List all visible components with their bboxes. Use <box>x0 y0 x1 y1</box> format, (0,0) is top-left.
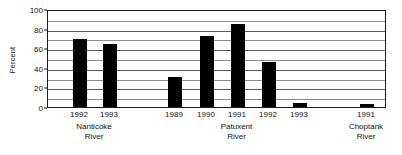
x-axis-labels: 19921993NanticokeRiver198919901991199219… <box>0 108 402 155</box>
group-label: NanticokeRiver <box>76 122 112 142</box>
x-axis-tick-label: 1990 <box>197 110 215 119</box>
bar-chart: Percent 020406080100 19921993NanticokeRi… <box>0 0 402 155</box>
bar <box>231 24 245 107</box>
x-axis-tick-label: 1991 <box>228 110 246 119</box>
bar <box>293 103 307 107</box>
bar-series <box>48 11 385 107</box>
y-axis-tick-label: 100 <box>3 6 43 15</box>
y-axis-tick-label: 40 <box>3 64 43 73</box>
x-axis-tick-label: 1991 <box>357 110 375 119</box>
x-axis-tick-label: 1993 <box>290 110 308 119</box>
x-axis-tick-label: 1992 <box>259 110 277 119</box>
bar <box>262 62 276 107</box>
plot-area <box>47 10 386 108</box>
bar <box>360 104 374 107</box>
group-label-line: Choptank <box>349 122 383 132</box>
bar <box>168 77 182 107</box>
group-label: ChoptankRiver <box>349 122 383 142</box>
group-label-line: River <box>349 132 383 142</box>
x-axis-tick-label: 1992 <box>70 110 88 119</box>
y-axis-tick-label: 80 <box>3 25 43 34</box>
bar <box>73 39 87 107</box>
x-axis-tick-label: 1993 <box>100 110 118 119</box>
bar <box>103 44 117 107</box>
group-label: PatuxentRiver <box>221 122 253 142</box>
x-axis-tick-label: 1989 <box>165 110 183 119</box>
group-label-line: River <box>221 132 253 142</box>
group-label-line: River <box>76 132 112 142</box>
group-label-line: Nanticoke <box>76 122 112 132</box>
group-label-line: Patuxent <box>221 122 253 132</box>
y-axis-tick-labels: 020406080100 <box>0 0 47 118</box>
y-axis-tick-label: 20 <box>3 84 43 93</box>
bar <box>200 36 214 107</box>
y-axis-tick-label: 60 <box>3 45 43 54</box>
